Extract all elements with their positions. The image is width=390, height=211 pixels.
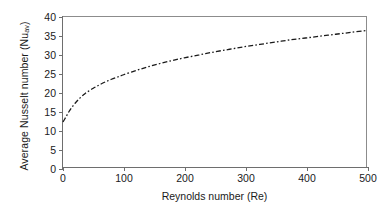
y-tick-label-30: 30	[44, 49, 56, 61]
x-tick-label-300: 300	[237, 172, 255, 184]
x-tick-label-500: 500	[359, 172, 377, 184]
y-tick-label-20: 20	[44, 87, 56, 99]
x-tick-label-0: 0	[60, 172, 66, 184]
x-tick-label-400: 400	[298, 172, 316, 184]
y-axis-title: Average Nusselt number (Nuav)	[16, 10, 32, 182]
series-line-nusselt	[63, 31, 366, 123]
y-axis-title-prefix: Average Nusselt number (Nu	[18, 33, 30, 171]
plot-area: 0510152025303540 0100200300400500	[62, 16, 367, 168]
x-tick-100	[124, 167, 125, 171]
x-tick-400	[307, 167, 308, 171]
y-axis-title-subscript: av	[22, 25, 31, 33]
y-tick-label-5: 5	[50, 144, 56, 156]
x-axis-title: Reynolds number (Re)	[62, 190, 367, 202]
y-tick-label-0: 0	[50, 163, 56, 175]
x-tick-label-100: 100	[115, 172, 133, 184]
y-tick-label-15: 15	[44, 106, 56, 118]
y-tick-label-35: 35	[44, 30, 56, 42]
x-tick-500	[368, 167, 369, 171]
x-tick-label-200: 200	[176, 172, 194, 184]
y-tick-label-25: 25	[44, 68, 56, 80]
data-series-layer	[63, 17, 366, 167]
chart-container: Average Nusselt number (Nuav) 0510152025…	[0, 0, 390, 211]
x-tick-0	[63, 167, 64, 171]
x-tick-300	[246, 167, 247, 171]
y-tick-label-10: 10	[44, 125, 56, 137]
x-tick-200	[185, 167, 186, 171]
y-tick-label-40: 40	[44, 11, 56, 23]
